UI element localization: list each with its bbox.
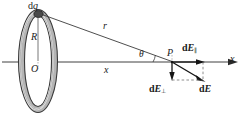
label-dq-q: q — [33, 0, 38, 11]
dE-parallel-arrowhead — [196, 59, 205, 64]
label-angle-theta: θ — [139, 50, 144, 60]
theta-angle-arc — [153, 55, 155, 62]
label-dq: dq — [28, 1, 38, 11]
label-distance-x: x — [104, 65, 108, 75]
r-distance-line — [42, 15, 172, 62]
label-axis-x: x — [230, 54, 234, 64]
diagram-canvas — [0, 0, 246, 117]
label-radius-R: R — [31, 32, 37, 42]
physics-diagram-charged-ring: dq R O r x θ P x dE∥ dE⊥ dE — [0, 0, 246, 117]
label-center-O: O — [31, 64, 38, 74]
dE-resultant-arrowhead — [196, 75, 206, 82]
point-p-marker — [171, 61, 173, 63]
label-dE-perpendicular: dE⊥ — [149, 84, 166, 95]
label-dE-resultant: dE — [199, 84, 211, 94]
label-dE-parallel-sub: ∥ — [194, 46, 197, 53]
label-point-P: P — [167, 48, 173, 58]
label-dE-parallel: dE∥ — [182, 43, 197, 54]
dE-resultant-shaft — [172, 62, 199, 78]
label-dE-E: E — [205, 83, 212, 94]
label-dE-perp-sub: ⊥ — [161, 87, 166, 94]
dq-charge-element-marker — [34, 11, 43, 18]
label-distance-r: r — [103, 21, 107, 31]
